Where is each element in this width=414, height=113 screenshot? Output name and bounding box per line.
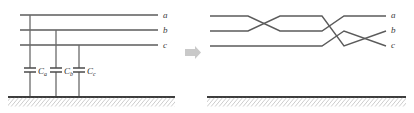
capacitor-labels: Ca Cb Cc: [38, 66, 96, 77]
right-arrow-icon: [185, 46, 201, 59]
capacitor-label-cb: Cb: [64, 66, 73, 77]
phase-label-c-right: c: [391, 40, 395, 50]
capacitor-label-cc: Cc: [87, 66, 96, 77]
left-conductors: [20, 15, 158, 45]
transposed-conductor-c: [210, 31, 386, 46]
phase-label-b-right: b: [391, 25, 396, 35]
capacitor-symbol-ca: [24, 68, 36, 72]
capacitor-label-ca-subscript: a: [44, 71, 47, 77]
transposition-figure: Ca Cb Cc a b c: [0, 0, 414, 113]
right-phase-labels: a b c: [391, 10, 396, 50]
figure-canvas: Ca Cb Cc a b c: [0, 0, 414, 113]
left-ground: [8, 97, 175, 107]
phase-label-a-right: a: [391, 10, 396, 20]
transformation-arrow: [185, 46, 201, 59]
left-panel: Ca Cb Cc a b c: [8, 10, 175, 107]
phase-label-b-left: b: [163, 25, 168, 35]
capacitor-symbol-cc: [73, 68, 85, 72]
transposed-conductor-a: [210, 16, 386, 31]
capacitor-label-ca: Ca: [38, 66, 47, 77]
right-ground: [207, 97, 406, 107]
capacitor-label-cc-subscript: c: [93, 71, 96, 77]
phase-label-c-left: c: [163, 40, 167, 50]
left-phase-labels: a b c: [163, 10, 168, 50]
right-panel: a b c: [207, 10, 406, 107]
right-conductors: [210, 16, 386, 46]
ground-hatching-left: [8, 98, 175, 107]
left-drop-leads: [30, 15, 79, 97]
capacitor-label-cb-subscript: b: [70, 71, 73, 77]
ground-hatching-right: [207, 98, 406, 107]
capacitor-symbol-cb: [50, 68, 62, 72]
phase-label-a-left: a: [163, 10, 168, 20]
capacitor-symbols: [24, 68, 85, 72]
